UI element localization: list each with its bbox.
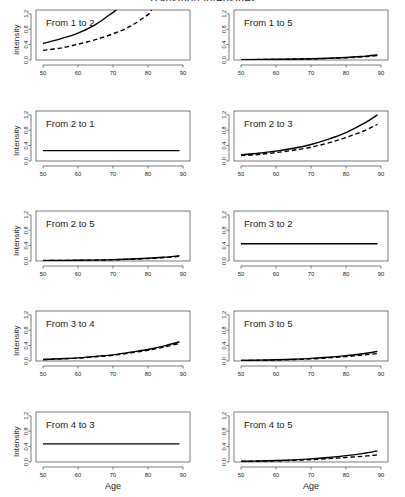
- svg-text:80: 80: [343, 271, 349, 277]
- svg-text:1.2: 1.2: [221, 111, 227, 119]
- svg-text:70: 70: [308, 171, 314, 177]
- x-axis-label: Age: [234, 481, 388, 491]
- svg-text:0.8: 0.8: [221, 126, 227, 134]
- panel-from-3-to-2: 0.00.40.81.25060708090From 3 to 2: [0, 197, 402, 279]
- transition-intensity-figure: Transition intensities 0.00.40.81.250607…: [0, 0, 405, 497]
- panel-from-4-to-5: 0.00.40.81.25060708090From 4 to 5Age: [0, 398, 402, 480]
- panel-label: From 3 to 5: [244, 318, 293, 329]
- svg-text:0.4: 0.4: [221, 342, 227, 350]
- svg-text:90: 90: [378, 371, 384, 377]
- svg-text:90: 90: [378, 171, 384, 177]
- svg-text:50: 50: [238, 472, 244, 478]
- svg-text:70: 70: [308, 70, 314, 76]
- svg-text:70: 70: [308, 371, 314, 377]
- svg-text:0.0: 0.0: [221, 56, 227, 64]
- panel-label: From 1 to 5: [244, 17, 293, 28]
- svg-text:80: 80: [343, 371, 349, 377]
- svg-text:50: 50: [238, 271, 244, 277]
- svg-text:70: 70: [308, 472, 314, 478]
- svg-text:0.8: 0.8: [221, 427, 227, 435]
- svg-text:0.0: 0.0: [221, 157, 227, 165]
- svg-text:80: 80: [343, 171, 349, 177]
- svg-text:0.4: 0.4: [221, 242, 227, 250]
- svg-text:60: 60: [273, 171, 279, 177]
- svg-text:50: 50: [238, 70, 244, 76]
- panel-from-1-to-5: 0.00.40.81.25060708090From 1 to 5: [0, 0, 402, 78]
- panel-from-3-to-5: 0.00.40.81.25060708090From 3 to 5: [0, 297, 402, 379]
- svg-text:0.4: 0.4: [221, 41, 227, 49]
- svg-text:60: 60: [273, 472, 279, 478]
- svg-text:80: 80: [343, 70, 349, 76]
- svg-text:80: 80: [343, 472, 349, 478]
- svg-text:90: 90: [378, 472, 384, 478]
- svg-text:0.4: 0.4: [221, 443, 227, 451]
- svg-text:0.0: 0.0: [221, 257, 227, 265]
- svg-text:0.4: 0.4: [221, 142, 227, 150]
- svg-text:1.2: 1.2: [221, 311, 227, 319]
- svg-text:0.8: 0.8: [221, 326, 227, 334]
- panel-label: From 3 to 2: [244, 218, 293, 229]
- svg-text:0.0: 0.0: [221, 458, 227, 466]
- svg-text:50: 50: [238, 171, 244, 177]
- svg-text:60: 60: [273, 271, 279, 277]
- svg-text:1.2: 1.2: [221, 211, 227, 219]
- x-axis-label: Age: [36, 481, 190, 491]
- svg-text:0.8: 0.8: [221, 25, 227, 33]
- svg-text:50: 50: [238, 371, 244, 377]
- svg-text:60: 60: [273, 371, 279, 377]
- svg-text:60: 60: [273, 70, 279, 76]
- panel-label: From 4 to 5: [244, 419, 293, 430]
- svg-text:90: 90: [378, 70, 384, 76]
- svg-text:1.2: 1.2: [221, 412, 227, 420]
- svg-text:90: 90: [378, 271, 384, 277]
- svg-text:0.8: 0.8: [221, 226, 227, 234]
- panel-from-2-to-3: 0.00.40.81.25060708090From 2 to 3: [0, 97, 402, 179]
- svg-text:0.0: 0.0: [221, 357, 227, 365]
- svg-text:1.2: 1.2: [221, 10, 227, 18]
- panel-label: From 2 to 3: [244, 118, 293, 129]
- curve-dashed: [241, 124, 378, 155]
- svg-text:70: 70: [308, 271, 314, 277]
